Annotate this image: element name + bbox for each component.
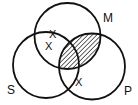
label-s: S bbox=[7, 83, 15, 97]
label-m: M bbox=[103, 11, 113, 25]
x-mark-3: X bbox=[75, 76, 83, 88]
label-p: P bbox=[124, 84, 132, 98]
x-mark-2: X bbox=[45, 40, 53, 52]
x-mark-1: X bbox=[49, 28, 57, 40]
venn-diagram: M S P X X X bbox=[0, 0, 138, 105]
